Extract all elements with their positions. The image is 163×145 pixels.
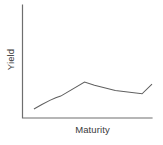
x-axis-label: Maturity [0,124,163,135]
chart-axes [23,5,153,118]
y-axis-label-container: Yield [0,0,22,118]
y-axis-label: Yield [6,48,17,69]
yield-curve-chart: Yield Maturity [0,0,163,145]
yield-curve-line [34,82,152,109]
